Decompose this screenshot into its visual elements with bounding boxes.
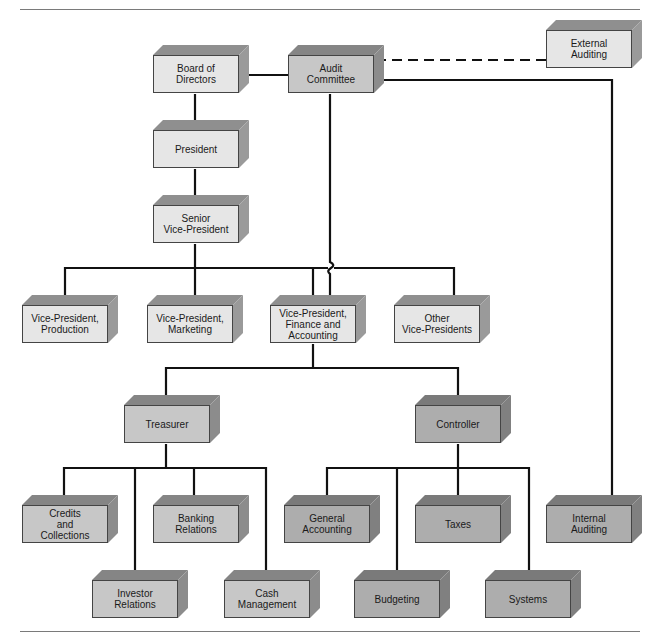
org-node-controller: Controller [415,405,501,443]
box-top-face [22,495,118,505]
box-top-face [92,570,188,580]
box-top-face [224,570,320,580]
org-node-svp: Senior Vice-President [153,205,239,243]
node-label: General Accounting [284,505,370,543]
org-node-audit: Audit Committee [288,55,374,93]
box-top-face [153,120,249,130]
org-node-vp-other: Other Vice-Presidents [394,305,480,343]
node-label: Board of Directors [153,55,239,93]
org-node-vp-prod: Vice-President, Production [22,305,108,343]
org-node-vp-fin: Vice-President, Finance and Accounting [270,305,356,343]
box-top-face [147,295,243,305]
org-node-investor: Investor Relations [92,580,178,618]
node-label: Budgeting [354,580,440,618]
node-label: Investor Relations [92,580,178,618]
org-node-internal: Internal Auditing [546,505,632,543]
node-label: Credits and Collections [22,505,108,543]
org-node-budgeting: Budgeting [354,580,440,618]
org-node-vp-mkt: Vice-President, Marketing [147,305,233,343]
box-top-face [415,395,511,405]
box-top-face [546,20,642,30]
node-label: Systems [485,580,571,618]
box-top-face [394,295,490,305]
box-top-face [288,45,384,55]
box-top-face [22,295,118,305]
org-node-external: External Auditing [546,30,632,68]
box-top-face [153,195,249,205]
org-node-president: President [153,130,239,168]
node-label: Audit Committee [288,55,374,93]
node-label: President [153,130,239,168]
org-node-credits: Credits and Collections [22,505,108,543]
node-label: Taxes [415,505,501,543]
box-top-face [153,45,249,55]
node-label: Treasurer [124,405,210,443]
node-label: Banking Relations [153,505,239,543]
node-label: Other Vice-Presidents [394,305,480,343]
box-top-face [354,570,450,580]
box-top-face [270,295,366,305]
node-label: External Auditing [546,30,632,68]
box-top-face [284,495,380,505]
box-top-face [485,570,581,580]
org-node-gen-acct: General Accounting [284,505,370,543]
org-node-board: Board of Directors [153,55,239,93]
node-label: Vice-President, Production [22,305,108,343]
org-node-treasurer: Treasurer [124,405,210,443]
node-label: Vice-President, Finance and Accounting [270,305,356,343]
node-label: Internal Auditing [546,505,632,543]
node-label: Vice-President, Marketing [147,305,233,343]
node-label: Controller [415,405,501,443]
org-node-cash: Cash Management [224,580,310,618]
box-top-face [124,395,220,405]
box-top-face [153,495,249,505]
org-node-taxes: Taxes [415,505,501,543]
node-label: Cash Management [224,580,310,618]
box-top-face [546,495,642,505]
org-node-banking: Banking Relations [153,505,239,543]
org-node-systems: Systems [485,580,571,618]
box-top-face [415,495,511,505]
node-label: Senior Vice-President [153,205,239,243]
